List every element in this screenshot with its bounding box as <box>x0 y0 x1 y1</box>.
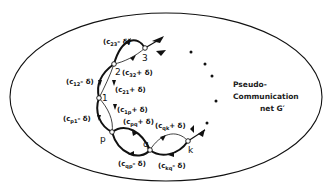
node-k <box>186 139 191 144</box>
node-1 <box>97 96 102 101</box>
edge-label-c21: (c21+ δ) <box>115 86 146 95</box>
node-q-label: q <box>143 139 149 149</box>
edge-label-cqk: (cqk+ δ) <box>155 122 186 132</box>
arrow-icon <box>152 36 164 43</box>
node-p-label: p <box>100 134 106 144</box>
node-3-label: 3 <box>142 53 148 63</box>
arrow-icon <box>156 50 166 56</box>
arrow-icon <box>160 135 166 141</box>
arrow-icon <box>130 55 136 61</box>
edge-label-c12: (c12- δ) <box>66 78 94 87</box>
edge-label-ckq: (ckq- δ) <box>158 162 186 172</box>
node-2 <box>112 62 117 67</box>
node-p <box>110 130 115 135</box>
arrow-icon <box>198 129 205 137</box>
node-k-label: k <box>188 145 194 155</box>
continuation-dots <box>190 51 218 125</box>
title-line-3: net G′ <box>260 104 285 113</box>
edge-label-c32: (c32+ δ) <box>122 69 153 78</box>
title-line-1: Pseudo- <box>233 80 267 89</box>
edge-label-cpq: (cpq+ δ) <box>123 118 154 128</box>
arrow-icon <box>190 125 194 133</box>
pseudo-communication-net-diagram: 3 2 1 p q k (c23- δ) (c32+ δ) (c12- δ) (… <box>0 0 333 191</box>
node-1-label: 1 <box>102 93 108 103</box>
node-2-label: 2 <box>115 67 121 77</box>
edge-label-c23: (c23- δ) <box>103 38 131 47</box>
node-3 <box>143 46 148 51</box>
title-line-2: Communication <box>233 92 299 101</box>
edge-label-cp1: (cp1- δ) <box>63 115 91 125</box>
edge-label-cqp: (cqp- δ) <box>118 160 146 170</box>
edge-label-c1p: (c1p+ δ) <box>117 106 148 116</box>
